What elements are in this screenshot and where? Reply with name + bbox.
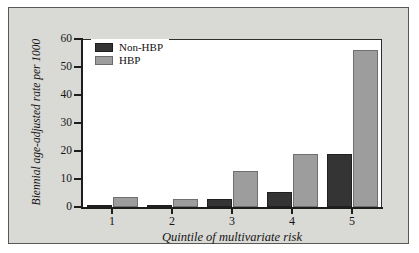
x-tick-label-4: 4 xyxy=(277,214,307,229)
y-tick-20 xyxy=(74,150,82,152)
y-tick-60 xyxy=(74,38,82,40)
chart-panel: 0102030405060 12345 Non-HBP HBP Quintile… xyxy=(8,7,409,244)
bar-hbp-q4 xyxy=(293,154,318,207)
x-tick-label-3: 3 xyxy=(217,214,247,229)
x-axis-title: Quintile of multivariate risk xyxy=(82,230,382,245)
bar-non-hbp-q2 xyxy=(147,205,172,207)
y-tick-label-0: 0 xyxy=(46,201,72,213)
y-tick-0 xyxy=(74,206,82,208)
y-tick-label-10: 10 xyxy=(46,173,72,185)
x-tick-label-5: 5 xyxy=(337,214,367,229)
bar-non-hbp-q5 xyxy=(327,154,352,207)
legend-label-non-hbp: Non-HBP xyxy=(119,42,163,53)
legend: Non-HBP HBP xyxy=(91,39,169,72)
y-tick-label-50: 50 xyxy=(46,61,72,73)
x-tick-label-1: 1 xyxy=(97,214,127,229)
legend-item-non-hbp: Non-HBP xyxy=(95,42,163,53)
bar-non-hbp-q3 xyxy=(207,199,232,207)
y-axis-title: Biennial age-adjusted rate per 1000 xyxy=(30,32,42,212)
y-tick-50 xyxy=(74,66,82,68)
legend-label-hbp: HBP xyxy=(119,55,140,66)
legend-swatch-non-hbp xyxy=(95,43,113,52)
bar-non-hbp-q4 xyxy=(267,192,292,207)
y-tick-label-30: 30 xyxy=(46,117,72,129)
y-tick-10 xyxy=(74,178,82,180)
figure: 0102030405060 12345 Non-HBP HBP Quintile… xyxy=(0,0,419,253)
bar-non-hbp-q1 xyxy=(87,205,112,207)
bar-hbp-q5 xyxy=(353,50,378,207)
bar-hbp-q2 xyxy=(173,199,198,207)
y-axis-tick-labels: 0102030405060 xyxy=(42,8,72,253)
y-tick-label-40: 40 xyxy=(46,89,72,101)
y-tick-40 xyxy=(74,94,82,96)
legend-swatch-hbp xyxy=(95,56,113,65)
y-tick-label-20: 20 xyxy=(46,145,72,157)
bar-hbp-q1 xyxy=(113,197,138,207)
legend-item-hbp: HBP xyxy=(95,55,163,66)
y-tick-30 xyxy=(74,122,82,124)
bar-hbp-q3 xyxy=(233,171,258,207)
y-tick-label-60: 60 xyxy=(46,33,72,45)
x-tick-label-2: 2 xyxy=(157,214,187,229)
